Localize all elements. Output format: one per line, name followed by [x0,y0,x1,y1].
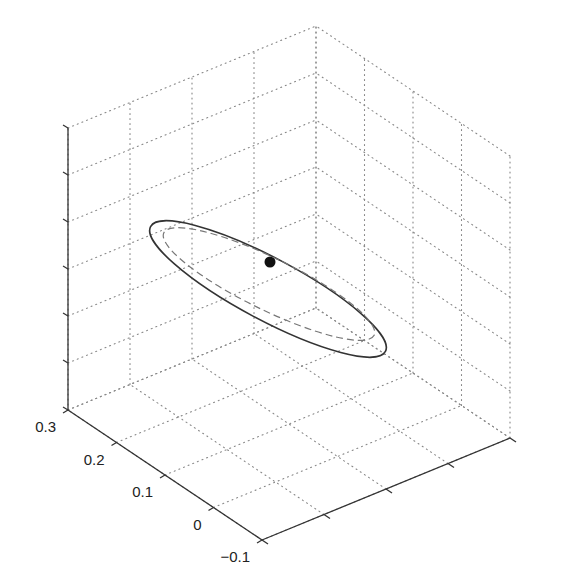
grid-line-back-wall-horizontal [68,120,316,222]
x-tick-mark [324,515,330,519]
x-tick-mark [386,489,392,493]
grid-line-floor-y [165,373,413,475]
z-tick-mark [63,219,68,222]
z-tick-mark [63,266,68,269]
y-tick-label: 0.3 [35,418,56,435]
tick-labels: −0.100.10.20.3 [35,418,250,565]
y-tick-mark [209,508,214,511]
grid-line-floor-x [130,385,324,515]
y-tick-label: 0.1 [132,483,153,500]
y-tick-mark [160,475,165,478]
y-tick-label: 0.2 [84,451,105,468]
x-tick-mark [262,540,268,544]
3d-plot: −0.100.10.20.3 [0,0,563,584]
z-tick-mark [63,125,68,128]
z-tick-mark [63,360,68,363]
ellipse-dashed [152,209,385,358]
z-tick-mark [63,313,68,316]
z-tick-mark [63,172,68,175]
y-tick-label: 0 [193,516,201,533]
y-tick-mark [112,443,117,446]
grid-line-floor-y [214,406,462,508]
grid-line-floor-x [192,359,386,489]
data-series [136,199,400,379]
z-tick-mark [63,407,68,410]
grid-lines [68,26,510,540]
x-tick-mark [448,464,454,468]
grid-line-side-wall-horizontal [316,120,510,250]
x-tick-mark [510,438,516,442]
y-tick-label: −0.1 [220,548,250,565]
y-tick-mark [63,410,68,413]
y-tick-mark [257,540,262,543]
ellipse-solid [136,199,400,379]
